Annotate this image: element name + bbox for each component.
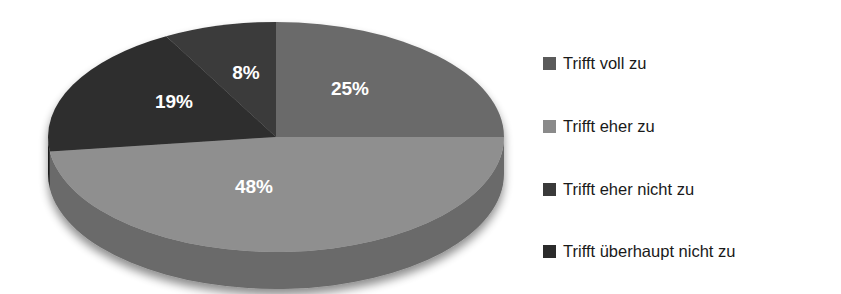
pie-slice-trifft-voll-zu[interactable]: [276, 22, 504, 137]
legend-swatch-icon: [543, 183, 556, 196]
legend-item-label: Trifft eher nicht zu: [563, 181, 694, 198]
legend-item-trifft-voll-zu[interactable]: Trifft voll zu: [543, 53, 646, 73]
pie-top-face: [48, 22, 504, 252]
pie-data-label-trifft-voll-zu: 25%: [331, 78, 369, 99]
legend-swatch-icon: [543, 120, 556, 133]
pie-chart-figure: 25% 48% 19% 8% Trifft voll zu Trifft ehe…: [0, 0, 841, 294]
legend-item-trifft-eher-zu[interactable]: Trifft eher zu: [543, 116, 655, 136]
legend-item-trifft-eher-nicht-zu[interactable]: Trifft eher nicht zu: [543, 179, 694, 199]
chart-legend: Trifft voll zu Trifft eher zu Trifft ehe…: [543, 40, 838, 280]
legend-swatch-icon: [543, 57, 556, 70]
pie-data-label-trifft-eher-nicht-zu: 19%: [155, 91, 193, 112]
legend-item-label: Trifft eher zu: [563, 118, 655, 135]
pie-data-label-trifft-eher-zu: 48%: [235, 176, 273, 197]
legend-swatch-icon: [543, 245, 556, 258]
legend-item-trifft-ueberhaupt-nicht-zu[interactable]: Trifft überhaupt nicht zu: [543, 241, 735, 261]
legend-item-label: Trifft überhaupt nicht zu: [563, 243, 735, 260]
legend-item-label: Trifft voll zu: [563, 55, 646, 72]
pie-data-label-trifft-ueberhaupt-nicht-zu: 8%: [232, 62, 260, 83]
